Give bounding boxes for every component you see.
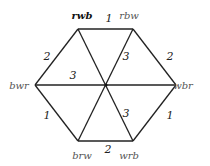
edge-weight-label: 3 [70,69,77,82]
edge-weight-label: 2 [43,50,51,63]
edge-weight-label: 1 [106,12,113,25]
edge-brw-bwr [35,85,78,141]
vertex-label-bwr: bwr [9,80,30,91]
edge-weight-label: 2 [166,50,174,63]
vertex-label-wbr: wbr [173,80,194,91]
vertex-label-rwb: rwb [72,10,93,21]
edge-weight-label: 2 [104,143,112,156]
hexagon-diagram: 121212333 rwbrbwwbrwrbbrwbwr [0,0,210,166]
center-point [105,84,108,87]
vertex-label-rbw: rbw [119,10,139,21]
edge-weight-label: 3 [123,50,130,63]
diagram-svg: 121212333 rwbrbwwbrwrbbrwbwr [0,0,210,166]
edge-weight-label: 3 [123,107,130,120]
vertex-label-wrb: wrb [119,150,139,161]
edge-weight-label: 1 [44,109,51,122]
vertex-label-brw: brw [72,150,92,161]
edge-weight-label: 1 [167,109,174,122]
edge-labels-group: 121212333 [43,12,174,156]
